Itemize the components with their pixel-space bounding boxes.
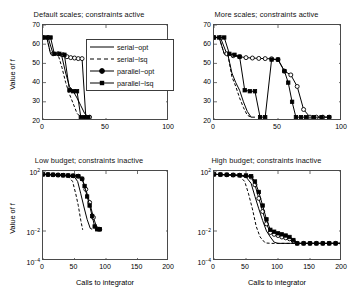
- panel-title-top-left: Default scales; constraints active: [0, 10, 178, 19]
- y-axis-label-top-left: Value of f: [8, 45, 17, 105]
- y-tick-label: 102: [179, 167, 211, 176]
- series-marker-3: [292, 238, 295, 241]
- series-line-0: [214, 37, 255, 117]
- x-tick-label: 50: [60, 263, 88, 270]
- y-tick-label: 10−2: [179, 227, 211, 236]
- series-marker-3: [334, 242, 337, 245]
- series-marker-3: [253, 90, 256, 93]
- series-marker-3: [67, 174, 70, 177]
- plot-area-bottom-left: [42, 170, 168, 260]
- series-marker-3: [77, 175, 80, 178]
- x-tick-label: 100: [91, 263, 119, 270]
- axis-tickmarks: [214, 25, 341, 120]
- legend-sample-solid-icon: [89, 41, 115, 53]
- series-marker-3: [257, 190, 260, 193]
- series-marker-3: [98, 228, 101, 231]
- series-marker-3: [299, 115, 302, 118]
- x-tick-label: 150: [123, 263, 151, 270]
- y-tick-label: 50: [179, 59, 211, 66]
- y-tick-label: 40: [179, 78, 211, 85]
- series-marker-3: [258, 115, 261, 118]
- series-marker-3: [261, 204, 264, 207]
- x-tick-label: 0: [28, 263, 56, 270]
- series-marker-3: [238, 55, 241, 58]
- y-tick-label: 30: [8, 97, 40, 104]
- series-marker-3: [276, 232, 279, 235]
- x-tick-label: 50: [263, 123, 291, 130]
- series-line-0: [43, 174, 92, 229]
- legend-sample-dashed-icon: [89, 53, 115, 65]
- legend-item: parallel−opt: [89, 65, 171, 77]
- panel-title-bottom-left: Low budget; constraints inactive: [0, 156, 178, 165]
- series-marker-2: [289, 73, 293, 77]
- legend-sample-solid-circle-icon: [89, 65, 115, 77]
- series-marker-3: [79, 115, 82, 118]
- series-marker-3: [320, 115, 323, 118]
- series-marker-3: [61, 174, 64, 177]
- series-marker-3: [253, 180, 256, 183]
- series-marker-2: [340, 241, 341, 245]
- legend-label: serial−opt: [115, 43, 148, 52]
- y-tick-label: 60: [8, 40, 40, 47]
- series-marker-3: [223, 36, 226, 39]
- x-tick-label: 100: [327, 123, 355, 130]
- series-canvas-bottom-left: [43, 171, 168, 260]
- series-marker-3: [46, 173, 49, 176]
- axis-tickmarks: [43, 171, 168, 260]
- y-tick-label: 60: [179, 40, 211, 47]
- series-marker-3: [290, 100, 293, 103]
- series-line-1: [214, 37, 251, 117]
- series-marker-2: [263, 57, 267, 61]
- series-marker-3: [312, 115, 315, 118]
- series-marker-3: [217, 36, 220, 39]
- series-marker-3: [304, 115, 307, 118]
- series-marker-3: [308, 242, 311, 245]
- series-marker-3: [49, 36, 52, 39]
- series-marker-3: [232, 173, 235, 176]
- panel-bottom-right: High budget; constraints inactive 10210−…: [178, 156, 355, 296]
- series-marker-3: [225, 173, 228, 176]
- series-marker-3: [287, 81, 290, 84]
- series-marker-3: [321, 242, 324, 245]
- plot-area-top-right: [213, 24, 341, 120]
- series-marker-3: [72, 90, 75, 93]
- y-axis-label-bottom-left: Value of f: [8, 189, 17, 249]
- series-marker-3: [249, 175, 252, 178]
- plot-area-bottom-right: [213, 170, 341, 260]
- series-marker-3: [328, 115, 331, 118]
- series-marker-3: [296, 242, 299, 245]
- series-marker-2: [80, 57, 84, 61]
- y-tick-label: 102: [8, 167, 40, 176]
- series-marker-3: [56, 173, 59, 176]
- axis-tickmarks: [214, 171, 341, 260]
- series-marker-3: [45, 36, 48, 39]
- panel-top-right: More scales; constraints active 20304050…: [178, 8, 355, 148]
- x-tick-label: 200: [327, 263, 355, 270]
- legend-label: serial−lsq: [115, 55, 148, 64]
- x-tick-label: 50: [91, 123, 119, 130]
- x-tick-label: 0: [199, 123, 227, 130]
- x-axis-label-bottom-right: Calls to integrator: [213, 278, 341, 287]
- x-tick-label: 0: [199, 263, 227, 270]
- legend-item: serial−lsq: [89, 53, 171, 65]
- series-marker-3: [43, 36, 45, 39]
- series-marker-3: [284, 234, 287, 237]
- series-marker-3: [238, 174, 241, 177]
- series-marker-3: [58, 52, 61, 55]
- series-marker-3: [269, 228, 272, 231]
- series-line-3: [214, 37, 329, 117]
- series-marker-3: [270, 58, 273, 61]
- series-marker-2: [302, 107, 306, 111]
- y-tick-label: 70: [179, 21, 211, 28]
- series-marker-3: [83, 184, 86, 187]
- legend-label: parallel−lsq: [115, 79, 154, 88]
- legend: serial−optserial−lsqparallel−optparallel…: [86, 39, 174, 91]
- series-marker-3: [340, 242, 341, 245]
- y-tick-label: 30: [179, 97, 211, 104]
- series-marker-3: [51, 173, 54, 176]
- series-marker-3: [53, 52, 56, 55]
- series-marker-3: [90, 214, 93, 217]
- y-tick-label: 10−2: [8, 227, 40, 236]
- panel-title-bottom-right: High budget; constraints inactive: [178, 156, 355, 165]
- figure-canvas: Default scales; constraints active Value…: [0, 0, 355, 296]
